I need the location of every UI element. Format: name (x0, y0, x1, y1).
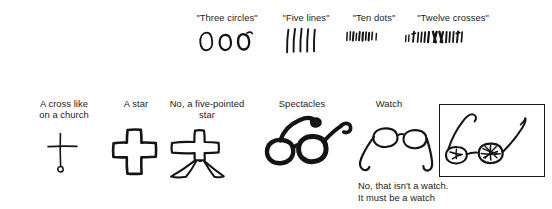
label-cross-like-church: A cross like on a church (22, 98, 106, 121)
caption-watch-correction: No, that isn't a watch. It must be a wat… (358, 180, 538, 204)
five-lines-sketch (284, 27, 322, 55)
label-twelve-crosses: "Twelve crosses" (403, 12, 503, 23)
label-five-lines: "Five lines" (270, 12, 342, 23)
label-spectacles: Spectacles (264, 98, 340, 109)
label-a-star: A star (110, 98, 162, 109)
light-spectacles-sketch (356, 116, 444, 174)
block-cross-sketch (109, 127, 163, 177)
dark-spectacles-sketch (262, 112, 354, 170)
thin-cross-sketch (44, 131, 88, 175)
label-ten-dots: "Ten dots" (343, 12, 405, 23)
label-five-pointed-star: No, a five-pointed star (158, 98, 256, 121)
framed-spectacles-sketch (439, 104, 545, 177)
three-circles-sketch (197, 28, 259, 54)
label-watch: Watch (362, 98, 416, 109)
five-pointed-star-sketch (165, 128, 227, 180)
twelve-crosses-sketch (404, 29, 466, 47)
ten-dots-sketch (345, 29, 381, 45)
figure-canvas: "Three circles" "Five lines" "Ten dots" … (0, 0, 552, 209)
label-three-circles: "Three circles" (186, 12, 268, 23)
